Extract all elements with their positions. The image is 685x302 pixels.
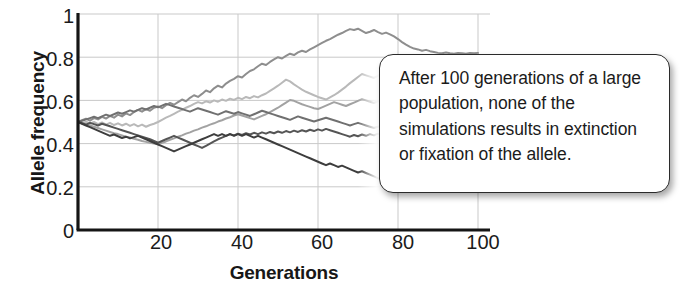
- allele-frequency-chart: Allele frequency 1 0.8 0.6 0.4 0.2 0 20 …: [0, 0, 685, 302]
- callout-box: After 100 generations of a large populat…: [379, 54, 670, 193]
- callout-text: After 100 generations of a large populat…: [399, 66, 657, 168]
